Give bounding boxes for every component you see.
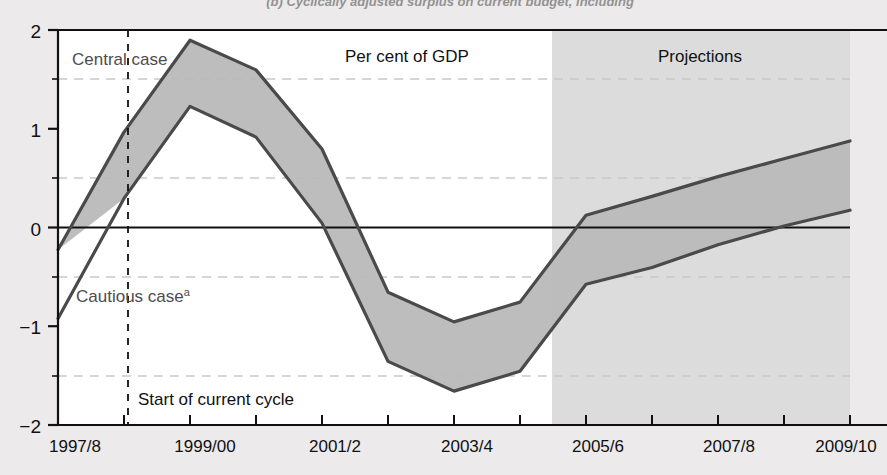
y-tick-label-0: 0 [30,219,41,240]
y-tick-label-1: 1 [30,120,41,141]
x-tick-label-2003-4: 2003/4 [441,437,493,456]
x-tick-label-2009-10: 2009/10 [815,437,876,456]
annotation-central-case: Central case [72,50,167,69]
annotation-start-of-current-cycle: Start of current cycle [138,390,294,409]
x-tick-label-1999-00: 1999/00 [174,437,235,456]
y-tick-label-neg2: −2 [19,416,41,437]
y-tick-label-neg1: −1 [19,317,41,338]
annotation-per-cent-of-gdp: Per cent of GDP [345,47,469,66]
annotation-cautious-case-footnote: a [184,286,191,298]
chart-figure: (b) Cyclically adjusted surplus on curre… [0,0,887,475]
x-tick-label-2001-2: 2001/2 [309,437,361,456]
y-axis-major-ticks [48,30,58,425]
chart-canvas: 2 1 0 −1 −2 1997/8 1999/00 2001/2 2003/4… [0,0,887,475]
x-tick-label-1997-8: 1997/8 [49,437,101,456]
x-tick-label-2007-8: 2007/8 [703,437,755,456]
y-tick-label-2: 2 [30,21,41,42]
annotation-cautious-case: Cautious casea [76,286,191,306]
x-tick-label-2005-6: 2005/6 [572,437,624,456]
annotation-cautious-case-text: Cautious case [76,287,184,306]
annotation-projections: Projections [658,47,742,66]
